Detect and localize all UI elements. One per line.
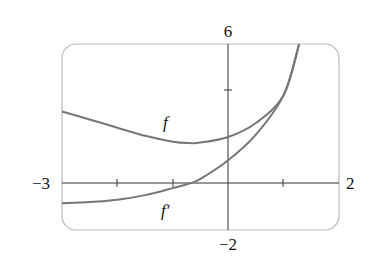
y-min-label: −2	[219, 235, 237, 254]
fprime-label: f′	[161, 201, 170, 220]
x-max-label: 2	[346, 174, 355, 193]
x-min-label: −3	[32, 174, 50, 193]
series-f	[62, 44, 299, 143]
y-max-label: 6	[224, 22, 233, 41]
f-label: f	[163, 113, 170, 132]
series-fprime	[62, 44, 299, 203]
chart: −3 2 6 −2 f f′	[0, 0, 376, 264]
ticks	[117, 90, 283, 187]
